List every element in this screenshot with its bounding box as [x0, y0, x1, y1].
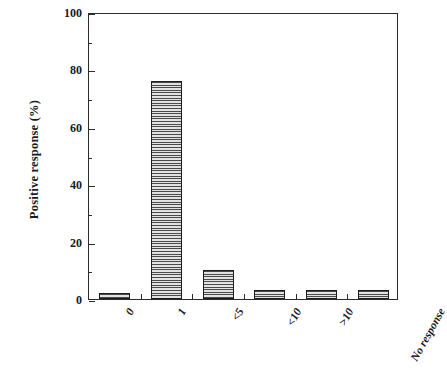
y-tick-major: [89, 186, 95, 187]
bar: [306, 290, 337, 299]
y-tick-minor: [89, 272, 92, 273]
x-tick: [192, 294, 193, 299]
y-tick-minor: [89, 158, 92, 159]
x-tick-label: 0: [123, 306, 136, 317]
y-tick-major: [89, 244, 95, 245]
y-tick-minor: [89, 43, 92, 44]
x-tick: [296, 294, 297, 299]
y-tick-label: 20: [42, 237, 82, 249]
y-tick-minor: [89, 215, 92, 216]
plot-area: [88, 13, 398, 300]
x-tick-label: >10: [336, 306, 355, 328]
bar: [99, 293, 130, 299]
y-tick-minor: [89, 100, 92, 101]
y-tick-major: [89, 129, 95, 130]
bar: [203, 270, 234, 299]
x-tick: [141, 294, 142, 299]
x-tick-label: <10: [284, 306, 303, 328]
y-tick-label: 60: [42, 122, 82, 134]
x-axis-tick-labels: 01<5<10>10No response: [88, 306, 398, 377]
bar: [358, 290, 389, 299]
y-tick-label: 40: [42, 179, 82, 191]
x-tick: [244, 294, 245, 299]
x-tick: [347, 294, 348, 299]
bar: [151, 81, 182, 299]
y-tick-label: 100: [42, 7, 82, 19]
y-tick-label: 0: [42, 294, 82, 306]
x-tick-label: No response: [408, 306, 447, 363]
x-tick-label: <5: [229, 306, 245, 323]
y-tick-major: [89, 71, 95, 72]
bar: [254, 290, 285, 299]
y-tick-label: 80: [42, 64, 82, 76]
x-tick-label: 1: [174, 306, 187, 317]
scan-artifact: [17, 0, 26, 4]
y-axis-tick-labels: 020406080100: [38, 13, 82, 300]
y-tick-major: [89, 14, 95, 15]
y-tick-major: [89, 301, 95, 302]
